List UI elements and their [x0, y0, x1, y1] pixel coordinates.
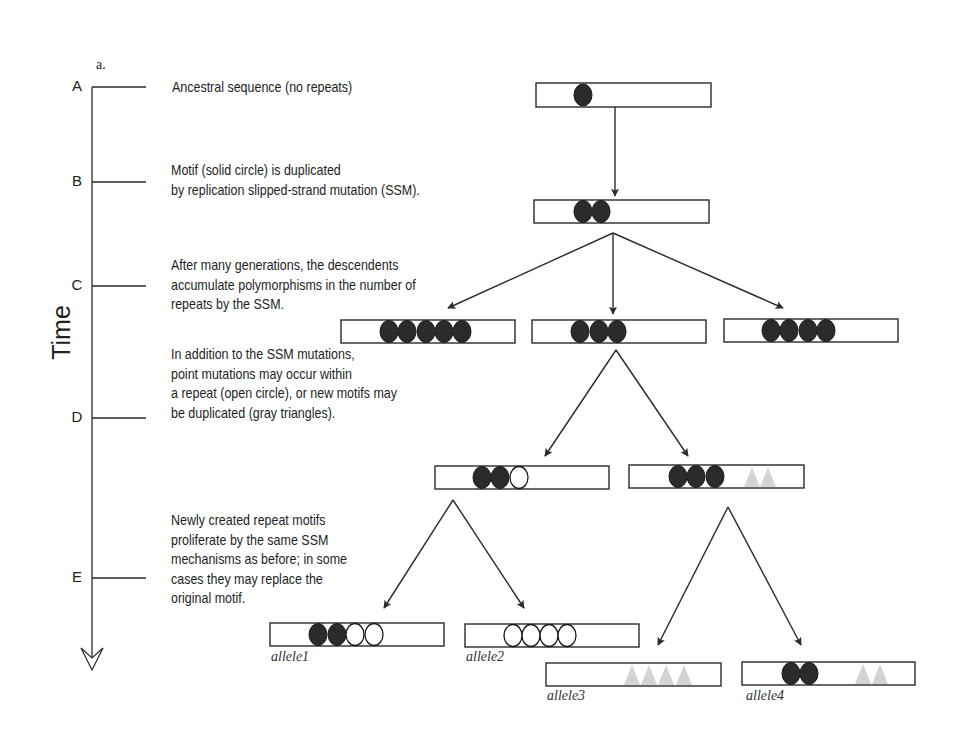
sequence-allele4	[742, 662, 915, 685]
descent-arrow-icon	[545, 350, 616, 456]
solid-circle-motif-icon	[592, 201, 610, 223]
sequence-d2	[629, 465, 804, 488]
stage-description-a: Ancestral sequence (no repeats)	[172, 78, 352, 98]
solid-circle-motif-icon	[574, 84, 592, 106]
open-circle-motif-icon	[510, 467, 528, 489]
description-line: by replication slipped-strand mutation (…	[171, 181, 420, 201]
solid-circle-motif-icon	[669, 466, 687, 488]
stage-letter-a: A	[67, 77, 87, 94]
stage-letter-d: D	[67, 408, 87, 425]
descent-arrow-icon	[384, 500, 453, 608]
solid-circle-motif-icon	[417, 321, 435, 343]
descent-arrow-icon	[658, 507, 728, 645]
sequence-c2	[532, 320, 706, 343]
solid-circle-motif-icon	[574, 201, 592, 223]
sequence-b	[534, 200, 709, 223]
allele-label-1: allele1	[271, 649, 309, 665]
solid-circle-motif-icon	[780, 320, 798, 342]
sequence-bar	[536, 83, 711, 107]
stage-letter-c: C	[67, 276, 87, 293]
solid-circle-motif-icon	[571, 321, 589, 343]
open-circle-motif-icon	[504, 625, 522, 647]
open-circle-motif-icon	[346, 624, 364, 646]
time-axis-label: Time	[47, 298, 76, 368]
solid-circle-motif-icon	[473, 467, 491, 489]
description-line: a repeat (open circle), or new motifs ma…	[171, 384, 397, 404]
stage-description-c: After many generations, the descendentsa…	[171, 256, 416, 315]
descent-arrow-icon	[616, 350, 688, 456]
descent-arrow-icon	[613, 233, 783, 308]
sequence-a	[536, 83, 711, 107]
description-line: accumulate polymorphisms in the number o…	[171, 276, 416, 296]
solid-circle-motif-icon	[817, 320, 835, 342]
solid-circle-motif-icon	[453, 321, 471, 343]
solid-circle-motif-icon	[799, 320, 817, 342]
sequence-bar	[534, 200, 709, 223]
open-circle-motif-icon	[522, 625, 540, 647]
solid-circle-motif-icon	[328, 624, 346, 646]
sequence-allele3	[546, 663, 721, 686]
sequence-d1	[435, 466, 609, 489]
solid-circle-motif-icon	[782, 663, 800, 685]
panel-label: a.	[96, 57, 106, 73]
ssm-evolution-diagram	[0, 0, 960, 748]
sequence-allele1	[270, 623, 444, 646]
open-circle-motif-icon	[365, 624, 383, 646]
description-line: After many generations, the descendents	[171, 256, 416, 276]
description-line: repeats by the SSM.	[171, 295, 416, 315]
descent-arrow-icon	[448, 233, 613, 308]
solid-circle-motif-icon	[687, 466, 705, 488]
solid-circle-motif-icon	[309, 624, 327, 646]
stage-description-d: In addition to the SSM mutations,point m…	[171, 345, 397, 423]
sequence-c1	[341, 320, 515, 343]
sequence-bar	[742, 662, 915, 685]
description-line: mechanisms as before; in some	[171, 550, 347, 570]
sequence-allele2	[465, 624, 639, 647]
description-line: proliferate by the same SSM	[171, 531, 347, 551]
solid-circle-motif-icon	[491, 467, 509, 489]
description-line: original motif.	[171, 589, 347, 609]
description-line: cases they may replace the	[171, 570, 347, 590]
description-line: be duplicated (gray triangles).	[171, 404, 397, 424]
allele-label-3: allele3	[547, 688, 585, 704]
solid-circle-motif-icon	[590, 321, 608, 343]
description-line: point mutations may occur within	[171, 365, 397, 385]
stage-ticks	[92, 87, 146, 578]
open-circle-motif-icon	[540, 625, 558, 647]
arrows	[384, 107, 801, 645]
descent-arrow-icon	[728, 507, 801, 645]
description-line: Newly created repeat motifs	[171, 511, 347, 531]
description-line: Motif (solid circle) is duplicated	[171, 161, 420, 181]
descent-arrow-icon	[453, 500, 524, 608]
sequence-c3	[724, 319, 898, 342]
stage-description-b: Motif (solid circle) is duplicatedby rep…	[171, 161, 420, 200]
allele-label-2: allele2	[466, 649, 504, 665]
time-axis	[81, 87, 146, 670]
solid-circle-motif-icon	[762, 320, 780, 342]
solid-circle-motif-icon	[608, 321, 626, 343]
allele-label-4: allele4	[746, 688, 784, 704]
solid-circle-motif-icon	[706, 466, 724, 488]
description-line: Ancestral sequence (no repeats)	[172, 78, 352, 98]
solid-circle-motif-icon	[398, 321, 416, 343]
stage-letter-b: B	[67, 172, 87, 189]
stage-letter-e: E	[67, 568, 87, 585]
description-line: In addition to the SSM mutations,	[171, 345, 397, 365]
stage-description-e: Newly created repeat motifsproliferate b…	[171, 511, 347, 609]
open-circle-motif-icon	[558, 625, 576, 647]
solid-circle-motif-icon	[800, 663, 818, 685]
solid-circle-motif-icon	[380, 321, 398, 343]
solid-circle-motif-icon	[435, 321, 453, 343]
